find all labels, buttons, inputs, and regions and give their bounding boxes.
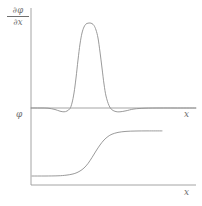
derivative-axis-label: ∂φ ∂x — [7, 6, 29, 28]
derivative-curve — [31, 23, 196, 112]
sigmoid-curve — [32, 131, 162, 176]
figure-container: ∂φ ∂x φ x x — [0, 0, 202, 206]
x-axis-label-bottom: x — [184, 188, 189, 197]
x-axis-label-top: x — [184, 110, 189, 119]
plot-canvas — [0, 0, 202, 206]
derivative-denominator: ∂x — [7, 18, 29, 28]
phi-axis-label: φ — [16, 110, 22, 119]
derivative-numerator: ∂φ — [7, 6, 29, 16]
